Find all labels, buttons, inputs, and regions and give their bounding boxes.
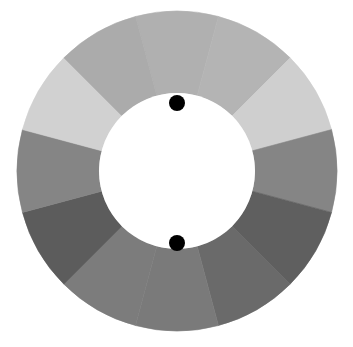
ring-segments (17, 11, 337, 331)
bottom-dot-marker (169, 235, 185, 251)
ring-center-hole (99, 93, 255, 249)
segmented-ring-diagram (0, 0, 353, 347)
diagram-canvas (0, 0, 353, 347)
top-dot-marker (169, 95, 185, 111)
